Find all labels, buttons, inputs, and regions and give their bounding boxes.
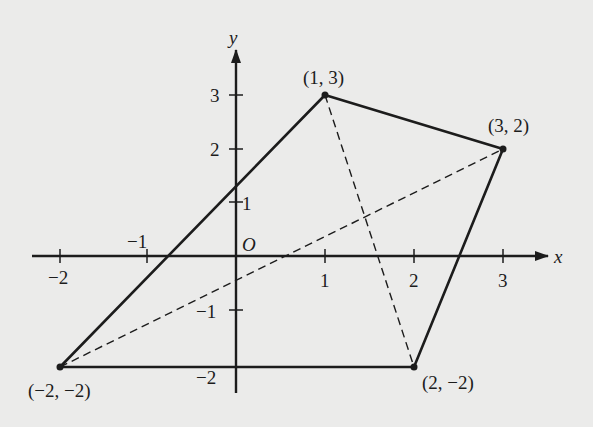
vertex-dot <box>322 92 329 99</box>
vertex-label: (3, 2) <box>488 115 529 137</box>
y-tick-label: −1 <box>196 301 216 322</box>
diagonal-neg2-neg2-to-3-2 <box>60 149 503 367</box>
vertex-label: (−2, −2) <box>28 380 91 402</box>
x-tick-label: −2 <box>48 267 68 288</box>
x-tick-label: 2 <box>409 270 419 291</box>
vertex-label: (1, 3) <box>303 67 344 89</box>
origin-label: O <box>242 234 256 255</box>
y-tick-label: −2 <box>196 367 216 388</box>
y-axis-label: y <box>227 27 238 48</box>
vertex-label: (2, −2) <box>422 372 474 394</box>
coordinate-plane-figure: x y O −2 −1 1 2 3 3 2 1 −1 −2 (1, 3) (3,… <box>0 0 593 427</box>
x-tick-label: 3 <box>498 270 508 291</box>
y-tick-label: 3 <box>210 85 220 106</box>
x-axis-label: x <box>553 246 563 267</box>
vertex-dot <box>57 364 64 371</box>
x-tick-label: 1 <box>320 270 330 291</box>
vertex-dot <box>500 146 507 153</box>
vertex-dot <box>411 364 418 371</box>
x-tick-label: −1 <box>127 231 147 252</box>
y-tick-label: 1 <box>242 193 252 214</box>
diagonal-1-3-to-2-neg2 <box>325 95 414 367</box>
y-tick-label: 2 <box>210 139 220 160</box>
